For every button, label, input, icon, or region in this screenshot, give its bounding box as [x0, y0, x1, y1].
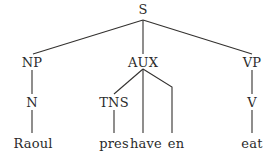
- leaf-pres: pres: [99, 136, 129, 151]
- leaf-raoul: Raoul: [13, 136, 52, 151]
- node-aux: AUX: [128, 55, 158, 70]
- tree-edges-layer: [0, 0, 277, 158]
- leaf-eat: eat: [241, 136, 262, 151]
- leaf-have: have: [130, 136, 162, 151]
- node-tns: TNS: [99, 95, 129, 110]
- node-s: S: [138, 2, 147, 17]
- node-n: N: [26, 95, 38, 110]
- syntax-tree-figure: S NP AUX VP N TNS V Raoul pres have en e…: [0, 0, 277, 158]
- edge-s-np: [33, 20, 143, 54]
- node-v: V: [247, 95, 257, 110]
- edge-aux-tns: [114, 69, 143, 94]
- edge-s-vp: [143, 20, 252, 54]
- node-np: NP: [22, 55, 43, 70]
- edge-aux-en: [143, 69, 172, 133]
- node-vp: VP: [243, 55, 262, 70]
- leaf-en: en: [168, 136, 184, 151]
